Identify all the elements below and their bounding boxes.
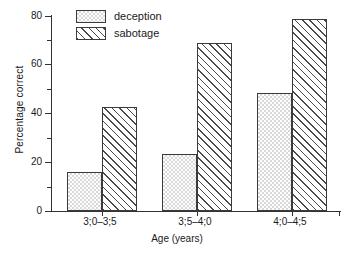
bar-sabotage-3;0-3;5: [102, 107, 137, 211]
legend-swatch-deception-icon: [76, 10, 106, 23]
legend-item-deception: deception: [76, 8, 162, 24]
x-tick-end: [339, 212, 340, 216]
y-tick-label-20: 20: [31, 157, 42, 167]
y-tick-minor-30: [47, 138, 51, 139]
y-tick-label-60: 60: [31, 59, 42, 69]
bar-sabotage-4;0-4;5: [292, 19, 327, 211]
legend-label-sabotage: sabotage: [114, 27, 159, 39]
y-tick-40-mark: [45, 113, 51, 114]
bar-deception-3;0-3;5: [67, 172, 102, 211]
x-axis-title: Age (years): [0, 233, 354, 244]
y-tick-minor-70b: [47, 40, 51, 41]
bar-deception-3;5-4;0: [162, 154, 197, 211]
y-axis-title: Percentage correct: [14, 50, 25, 170]
x-axis-line: [51, 211, 341, 212]
x-axis-label-group-3: 4;0–4;5: [245, 216, 335, 227]
legend-label-deception: deception: [114, 10, 162, 22]
y-tick-minor-50b: [47, 89, 51, 90]
bar-chart-figure: 80 60 40 20 0 Percentage correct 3;0–3;5…: [0, 0, 354, 254]
legend-swatch-sabotage-icon: [76, 27, 106, 40]
y-tick-label-0: 0: [36, 206, 42, 216]
legend-item-sabotage: sabotage: [76, 25, 162, 41]
y-tick-0: [45, 211, 51, 212]
y-tick-20-mark: [45, 162, 51, 163]
bar-sabotage-3;5-4;0: [197, 43, 232, 211]
y-tick-label-40: 40: [31, 108, 42, 118]
y-tick-minor-10: [47, 187, 51, 188]
chart-legend: deception sabotage: [76, 8, 162, 42]
x-axis-label-group-2: 3;5–4;0: [150, 216, 240, 227]
x-axis-label-group-1: 3;0–3;5: [55, 216, 145, 227]
plot-area: [52, 16, 340, 211]
bar-deception-4;0-4;5: [257, 93, 292, 211]
y-tick-60-mark: [45, 64, 51, 65]
y-tick-80: [45, 16, 51, 17]
y-tick-label-80: 80: [31, 11, 42, 21]
